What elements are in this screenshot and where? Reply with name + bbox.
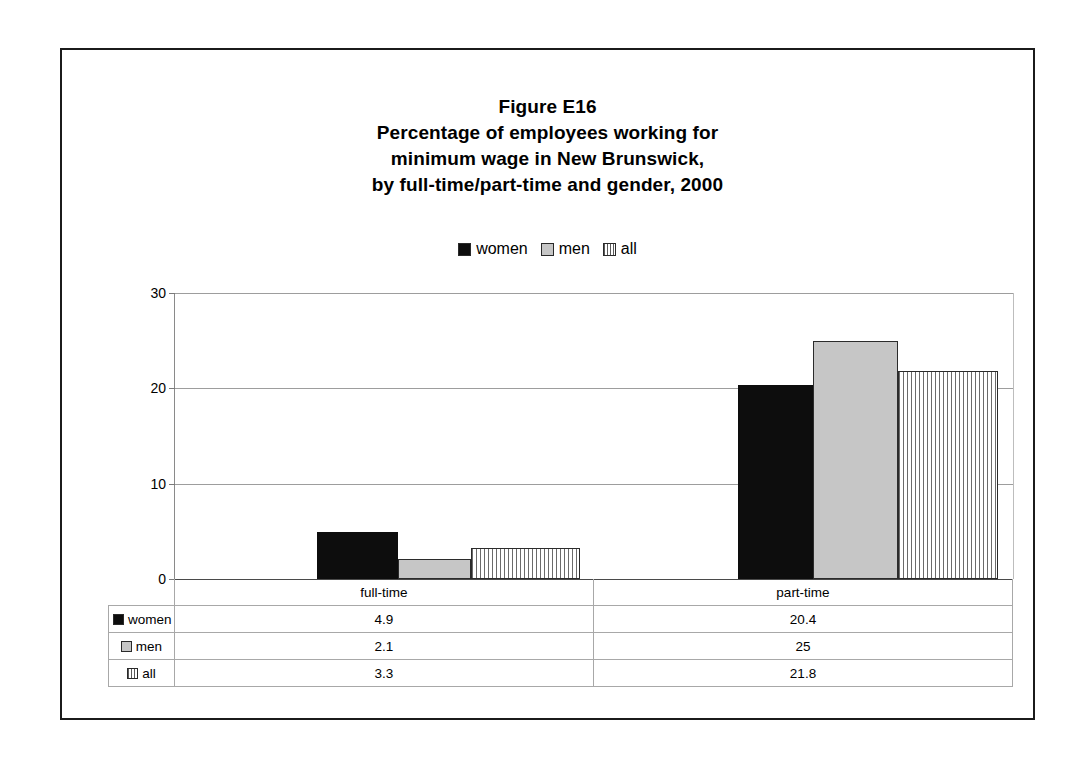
plot-area: 30 20 10 0 xyxy=(174,293,1014,579)
figure-frame: Figure E16 Percentage of employees worki… xyxy=(60,48,1035,720)
table-row: men 2.1 25 xyxy=(109,633,1013,660)
legend-item-women: women xyxy=(458,240,528,258)
solid-black-swatch-icon xyxy=(113,614,124,625)
bar-full-time-men xyxy=(398,559,471,579)
cell-all-full-time: 3.3 xyxy=(175,660,594,687)
table-row-label-women: women xyxy=(109,606,175,633)
legend-item-all: all xyxy=(603,240,637,258)
table-corner-cell xyxy=(109,579,175,606)
title-line-4: by full-time/part-time and gender, 2000 xyxy=(62,172,1033,198)
legend-label-women: women xyxy=(476,240,528,258)
bar-part-time-men xyxy=(813,341,898,579)
cell-all-part-time: 21.8 xyxy=(594,660,1013,687)
chart-data-table: full-time part-time women 4.9 20.4 men 2… xyxy=(108,579,1013,687)
cell-men-full-time: 2.1 xyxy=(175,633,594,660)
legend-item-men: men xyxy=(541,240,590,258)
table-row-label-all: all xyxy=(109,660,175,687)
ytick-label-10: 10 xyxy=(150,476,166,492)
table-header-row: full-time part-time xyxy=(109,579,1013,606)
title-line-1: Figure E16 xyxy=(62,94,1033,120)
chart-legend: women men all xyxy=(62,240,1033,258)
title-line-2: Percentage of employees working for xyxy=(62,120,1033,146)
cell-men-part-time: 25 xyxy=(594,633,1013,660)
page-title: Figure E16 Percentage of employees worki… xyxy=(62,94,1033,198)
ytick-mark-20 xyxy=(169,388,175,389)
legend-label-all: all xyxy=(621,240,637,258)
category-header-part-time: part-time xyxy=(594,579,1013,606)
vertical-stripe-swatch-icon xyxy=(127,668,138,679)
table-row: women 4.9 20.4 xyxy=(109,606,1013,633)
title-line-3: minimum wage in New Brunswick, xyxy=(62,146,1033,172)
solid-gray-swatch-icon xyxy=(121,641,132,652)
gridline-30 xyxy=(175,293,1013,294)
bar-part-time-all xyxy=(898,371,998,579)
solid-gray-swatch-icon xyxy=(541,243,554,256)
ytick-mark-30 xyxy=(169,293,175,294)
ytick-mark-10 xyxy=(169,484,175,485)
legend-label-men: men xyxy=(559,240,590,258)
table-row: all 3.3 21.8 xyxy=(109,660,1013,687)
bar-full-time-all xyxy=(471,548,580,579)
ytick-label-20: 20 xyxy=(150,380,166,396)
row-label-text-men: men xyxy=(136,639,162,654)
table-row-label-men: men xyxy=(109,633,175,660)
cell-women-full-time: 4.9 xyxy=(175,606,594,633)
category-header-full-time: full-time xyxy=(175,579,594,606)
solid-black-swatch-icon xyxy=(458,243,471,256)
bar-full-time-women xyxy=(317,532,398,579)
vertical-stripe-swatch-icon xyxy=(603,243,616,256)
cell-women-part-time: 20.4 xyxy=(594,606,1013,633)
bar-part-time-women xyxy=(738,385,813,579)
ytick-label-30: 30 xyxy=(150,285,166,301)
row-label-text-women: women xyxy=(128,612,172,627)
row-label-text-all: all xyxy=(142,666,156,681)
